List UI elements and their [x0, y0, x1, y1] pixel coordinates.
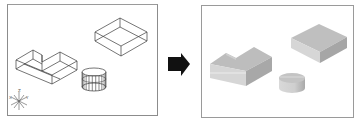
shaded-viewport [201, 5, 354, 118]
ucs-z-label: Z [18, 88, 21, 93]
ucs-x-label: X [9, 95, 12, 100]
ucs-y-label: Y [25, 95, 29, 100]
cylinder-wireframe [82, 68, 106, 91]
box-wireframe [95, 18, 147, 56]
ucs-icon: X Z Y [9, 88, 29, 110]
l-shape-wireframe [16, 50, 77, 84]
right-arrow-icon [168, 53, 190, 76]
